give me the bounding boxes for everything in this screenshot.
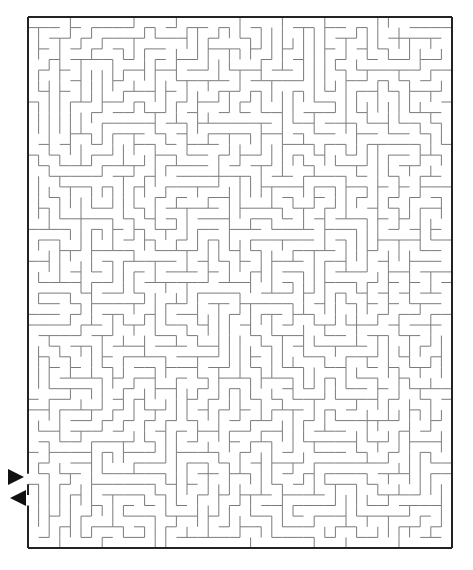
- maze: [0, 0, 473, 570]
- maze-walls: [28, 17, 452, 548]
- exit-arrow-icon: [10, 490, 26, 506]
- entrance-arrow-icon: [8, 469, 24, 485]
